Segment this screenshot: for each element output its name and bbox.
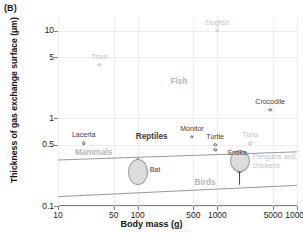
data-point-label-snake: Snake — [227, 149, 247, 156]
data-point-label-crocodile: Crocodile — [255, 98, 285, 105]
y-tick-label-0.5: 0.5 — [20, 139, 54, 149]
gridline-vertical — [297, 18, 298, 206]
gridline-vertical — [273, 18, 274, 206]
y-tick — [54, 31, 58, 32]
gridline-horizontal — [58, 118, 297, 119]
group-label-reptiles: Reptiles — [136, 132, 168, 141]
gridline-horizontal — [58, 206, 297, 207]
y-tick — [54, 118, 58, 119]
gridline-vertical — [217, 18, 218, 206]
gridline-vertical — [58, 18, 59, 206]
blob-label-bat: Bat — [150, 166, 161, 173]
data-point-label-turtle: Turtle — [206, 133, 224, 140]
data-point-label-trout: Trout — [91, 53, 107, 60]
y-tick-label-0.1: 0.1 — [20, 201, 54, 211]
y-tick-label-1: 1 — [20, 113, 54, 123]
x-tick-label-500: 500 — [186, 210, 200, 220]
data-point-label-dogfish: Dogfish — [205, 19, 229, 26]
y-axis-title: Thickness of gas exchange surface (μm) — [9, 2, 19, 198]
figure-panel: (B) Thickness of gas exchange surface (μ… — [0, 0, 303, 235]
y-tick — [54, 145, 58, 146]
x-tick-label-100: 100 — [131, 210, 145, 220]
gridline-horizontal — [58, 145, 297, 146]
plot-area — [58, 18, 297, 206]
y-tick-label-5: 5 — [20, 52, 54, 62]
x-tick-label-5000: 5000 — [264, 210, 283, 220]
gridline-vertical — [114, 18, 115, 206]
x-tick-label-10: 10 — [53, 210, 62, 220]
gridline-horizontal — [58, 31, 297, 32]
data-point-label-lacerta: Lacerta — [72, 131, 95, 138]
x-axis-title: Body mass (g) — [0, 219, 303, 229]
x-tick-label-10000: 10000 — [285, 210, 303, 220]
blob-label-penguins-and-chickens: Penguins and chickens — [253, 153, 299, 170]
group-label-mammals: Mammals — [75, 148, 112, 157]
y-tick — [54, 57, 58, 58]
data-point-label-tuna: Tuna — [243, 131, 259, 138]
group-label-birds: Birds — [195, 178, 216, 187]
y-tick — [54, 206, 58, 207]
x-tick-label-1000: 1000 — [208, 210, 227, 220]
group-label-fish: Fish — [171, 77, 188, 86]
x-tick-label-50: 50 — [109, 210, 118, 220]
y-tick-label-10: 10 — [20, 25, 54, 35]
data-blob-bat[interactable] — [128, 159, 148, 185]
data-point-label-monitor: Monitor — [180, 125, 203, 132]
